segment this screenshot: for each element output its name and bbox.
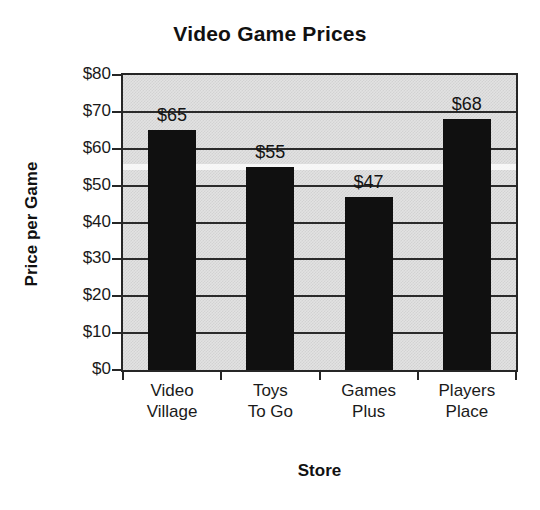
y-tick-mark bbox=[112, 111, 121, 113]
bar-4 bbox=[443, 119, 491, 370]
y-tick-label-10: $10 bbox=[53, 322, 111, 342]
x-tick-mark bbox=[122, 371, 124, 380]
bar-value-label-1: $65 bbox=[132, 105, 212, 126]
y-tick-mark bbox=[112, 148, 121, 150]
y-tick-mark bbox=[112, 332, 121, 334]
bar-chart-figure: Video Game Prices Price per Game $65$55$… bbox=[0, 0, 540, 510]
bar-1 bbox=[148, 130, 196, 370]
y-tick-label-30: $30 bbox=[53, 248, 111, 268]
x-axis-title: Store bbox=[121, 461, 518, 481]
y-tick-label-40: $40 bbox=[53, 212, 111, 232]
x-tick-label-4: PlayersPlace bbox=[407, 380, 527, 422]
bar-3 bbox=[345, 197, 393, 370]
x-tick-label-line: Players bbox=[407, 380, 527, 401]
y-tick-mark bbox=[112, 369, 121, 371]
x-tick-mark bbox=[319, 371, 321, 380]
y-tick-label-0: $0 bbox=[53, 359, 111, 379]
y-tick-mark bbox=[112, 222, 121, 224]
y-tick-label-50: $50 bbox=[53, 175, 111, 195]
bar-value-label-3: $47 bbox=[329, 172, 409, 193]
bar-2 bbox=[246, 167, 294, 370]
chart-title: Video Game Prices bbox=[0, 22, 540, 46]
y-tick-label-70: $70 bbox=[53, 101, 111, 121]
y-tick-label-80: $80 bbox=[53, 64, 111, 84]
y-tick-label-60: $60 bbox=[53, 138, 111, 158]
y-tick-mark bbox=[112, 74, 121, 76]
y-tick-mark bbox=[112, 185, 121, 187]
y-tick-mark bbox=[112, 258, 121, 260]
y-tick-mark bbox=[112, 295, 121, 297]
x-tick-mark bbox=[515, 371, 517, 380]
y-tick-label-20: $20 bbox=[53, 285, 111, 305]
y-axis-title: Price per Game bbox=[22, 119, 42, 329]
bar-value-label-2: $55 bbox=[230, 142, 310, 163]
x-tick-mark bbox=[220, 371, 222, 380]
x-tick-label-line: Place bbox=[407, 401, 527, 422]
bar-value-label-4: $68 bbox=[427, 94, 507, 115]
x-tick-mark bbox=[417, 371, 419, 380]
